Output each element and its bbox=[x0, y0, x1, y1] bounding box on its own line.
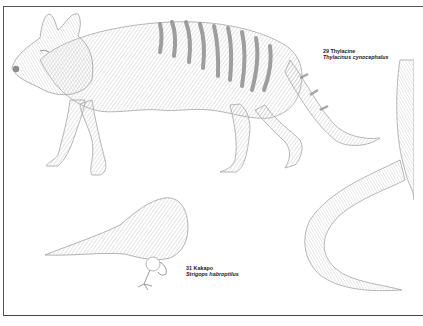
tail-animal-drawing bbox=[305, 60, 414, 291]
scientific-name: Thylacinus cynocephalus bbox=[323, 54, 389, 60]
label-kakapo: 31 Kakapo Strigops habroptilus bbox=[186, 265, 239, 278]
thylacine-drawing bbox=[12, 14, 380, 175]
label-thylacine: 29 Thylacine Thylacinus cynocephalus bbox=[323, 48, 389, 61]
scientific-name: Strigops habroptilus bbox=[186, 271, 239, 277]
kakapo-drawing bbox=[45, 198, 188, 290]
